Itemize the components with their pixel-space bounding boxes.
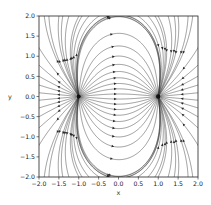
streamline-arrow [114, 82, 117, 85]
streamline [161, 84, 200, 95]
streamline-arrow [165, 49, 168, 52]
x-tick-label: 1.5 [173, 180, 183, 187]
streamline [81, 94, 157, 96]
streamline-arrow [175, 51, 178, 54]
y-axis-ticks: −2.0−1.5−1.0−0.50.00.51.01.52.0 [20, 12, 39, 180]
y-tick-label: −1.5 [20, 153, 35, 160]
streamline-arrow [113, 120, 116, 123]
charge-markers [77, 94, 161, 98]
streamline-arrow [113, 71, 116, 74]
y-tick-label: 1.0 [25, 52, 35, 59]
streamline-arrow [112, 135, 115, 138]
streamline-arrow [72, 56, 75, 59]
streamplot-figure: −2.0−1.5−1.0−0.50.00.51.01.52.0 −2.0−1.5… [0, 0, 211, 205]
y-tick-label: 1.5 [25, 32, 35, 39]
streamline-arrow [114, 93, 117, 96]
streamline-arrow [181, 97, 184, 100]
streamline [80, 98, 158, 137]
streamline-arrow [57, 97, 60, 100]
x-tick-label: −1.0 [71, 180, 86, 187]
streamline-arrow [114, 98, 117, 101]
streamline-arrow [58, 81, 61, 84]
streamline-arrow [181, 93, 184, 96]
streamline-arrow [161, 47, 164, 50]
streamline [161, 97, 200, 108]
streamline-arrow [180, 51, 182, 54]
y-tick-label: −1.0 [20, 133, 35, 140]
y-tick-label: −0.5 [20, 113, 35, 120]
streamline-arrow [165, 141, 168, 144]
x-tick-label: −1.5 [51, 180, 66, 187]
streamline-arrow [112, 64, 115, 67]
streamline-arrow [57, 94, 60, 97]
positive-charge-marker [77, 94, 81, 98]
streamline-arrow [112, 127, 115, 130]
y-tick-label: −2.0 [20, 173, 35, 180]
streamline-arrow [112, 56, 115, 59]
streamline-arrow [110, 157, 113, 160]
streamline-arrow [111, 46, 114, 49]
streamline-arrow [175, 139, 178, 142]
streamline [37, 84, 76, 95]
streamline [37, 45, 77, 95]
x-axis-label: x [117, 189, 121, 197]
y-axis-label: y [8, 93, 12, 101]
streamline-arrow [114, 108, 117, 111]
y-tick-label: 0.5 [25, 73, 35, 80]
streamline-arrow [180, 139, 182, 142]
x-tick-label: 0.0 [114, 180, 124, 187]
streamline-arrow [111, 145, 114, 148]
streamline [160, 45, 200, 95]
streamline [37, 98, 77, 148]
x-tick-label: 0.5 [133, 180, 143, 187]
streamline-arrow [75, 137, 78, 140]
x-tick-label: 2.0 [193, 180, 203, 187]
streamline-arrow [58, 109, 61, 112]
streamlines [37, 14, 200, 179]
streamline-arrow [114, 88, 117, 91]
streamline-arrow [161, 143, 164, 146]
streamline-arrow [66, 58, 69, 61]
streamline-arrow [66, 132, 69, 135]
y-tick-label: 0.0 [25, 93, 35, 100]
streamline-arrow [114, 103, 117, 106]
streamline-arrow [110, 33, 113, 36]
streamline-arrow [75, 53, 78, 56]
streamline [80, 56, 158, 95]
y-tick-label: 2.0 [25, 12, 35, 19]
x-tick-label: −2.0 [31, 180, 46, 187]
streamline [37, 97, 76, 108]
x-tick-label: −0.5 [91, 180, 106, 187]
x-axis-ticks: −2.0−1.5−1.0−0.50.00.51.01.52.0 [31, 177, 202, 187]
negative-charge-marker [156, 94, 160, 98]
streamline [160, 98, 200, 148]
streamline-arrow [72, 135, 75, 138]
x-tick-label: 1.0 [153, 180, 163, 187]
axes-frame [39, 16, 198, 177]
streamline [81, 97, 157, 99]
